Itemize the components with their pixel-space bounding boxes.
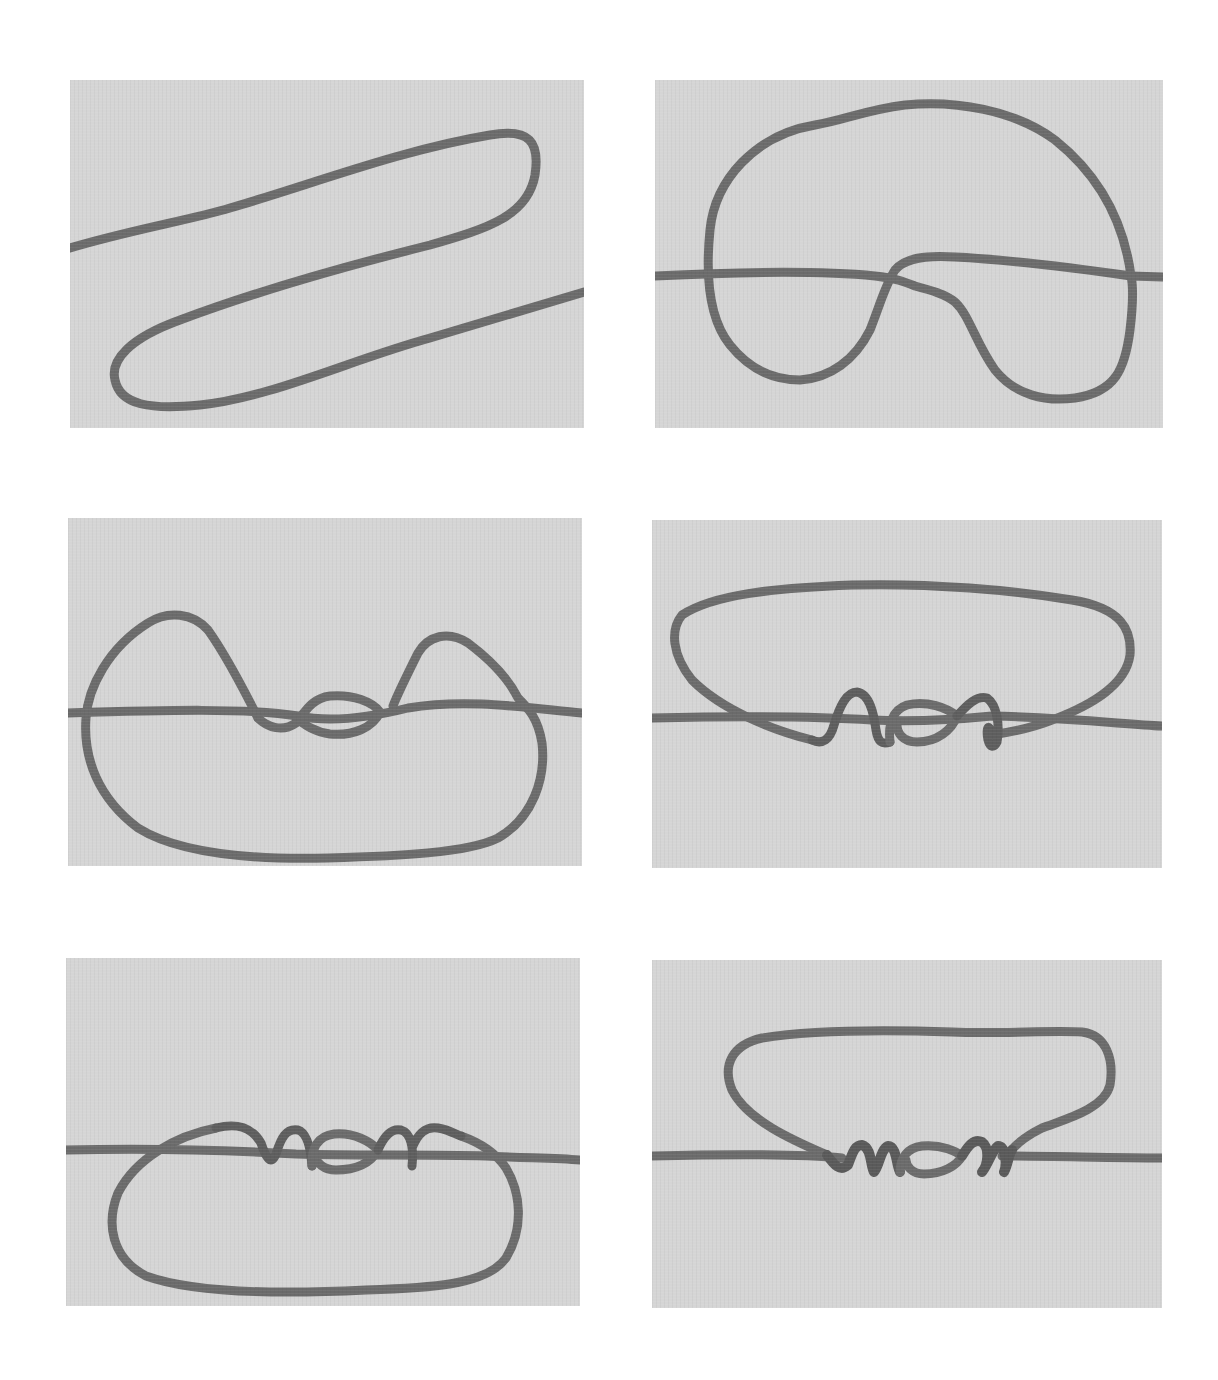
rope-wraps-lower-loop-illustration: [66, 958, 580, 1306]
rope-first-loop-illustration: [655, 80, 1163, 428]
step-3-photo: [68, 518, 582, 866]
rope-wraps-forming-illustration: [652, 520, 1162, 868]
step-6-photo: [652, 960, 1162, 1308]
rope-finished-knot-illustration: [652, 960, 1162, 1308]
rope-ears-illustration: [68, 518, 582, 866]
step-5-photo: [66, 958, 580, 1306]
rope-zigzag-illustration: [70, 80, 584, 428]
step-2-photo: [655, 80, 1163, 428]
step-4-photo: [652, 520, 1162, 868]
step-1-photo: [70, 80, 584, 428]
